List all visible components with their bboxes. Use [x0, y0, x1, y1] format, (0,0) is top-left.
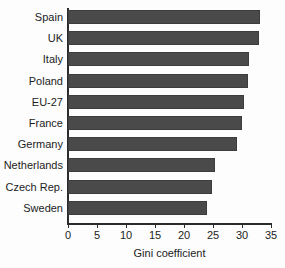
x-tick-mark	[68, 224, 69, 228]
bar-row	[68, 74, 271, 88]
bar	[68, 31, 259, 45]
plot-area	[68, 10, 271, 222]
x-tick-label: 10	[111, 229, 141, 241]
bar-row	[68, 158, 271, 172]
x-tick-label: 30	[227, 229, 257, 241]
bar-row	[68, 116, 271, 130]
bar	[68, 137, 237, 151]
bar	[68, 158, 215, 172]
category-label: Italy	[43, 52, 63, 66]
bar-row	[68, 137, 271, 151]
bar	[68, 95, 244, 109]
x-tick-mark	[184, 224, 185, 228]
bar	[68, 74, 248, 88]
bar-row	[68, 52, 271, 66]
bar-row	[68, 31, 271, 45]
category-label: Spain	[35, 10, 63, 24]
gini-coefficient-bar-chart: 05101520253035 Gini coefficient SpainUKI…	[0, 0, 285, 268]
x-tick-mark	[213, 224, 214, 228]
x-tick-mark	[126, 224, 127, 228]
x-tick-mark	[242, 224, 243, 228]
x-tick-label: 20	[169, 229, 199, 241]
category-label: France	[29, 116, 63, 130]
bar-row	[68, 180, 271, 194]
bar	[68, 52, 249, 66]
x-tick-mark	[271, 224, 272, 228]
x-tick-label: 35	[256, 229, 285, 241]
x-tick-label: 15	[140, 229, 170, 241]
category-label: Sweden	[23, 201, 63, 215]
x-tick-label: 0	[53, 229, 83, 241]
bar	[68, 116, 242, 130]
category-label: UK	[48, 31, 63, 45]
x-tick-label: 25	[198, 229, 228, 241]
bar-row	[68, 95, 271, 109]
x-axis-title: Gini coefficient	[68, 247, 271, 259]
category-label: Czech Rep.	[6, 180, 63, 194]
x-tick-mark	[155, 224, 156, 228]
bar	[68, 201, 207, 215]
bar-row	[68, 201, 271, 215]
bar-row	[68, 10, 271, 24]
x-tick-mark	[97, 224, 98, 228]
category-label: EU-27	[32, 95, 63, 109]
bar	[68, 10, 260, 24]
category-label: Netherlands	[4, 158, 63, 172]
chart-title	[0, 0, 285, 3]
category-label: Germany	[18, 137, 63, 151]
x-tick-label: 5	[82, 229, 112, 241]
category-label: Poland	[29, 74, 63, 88]
bar	[68, 180, 212, 194]
